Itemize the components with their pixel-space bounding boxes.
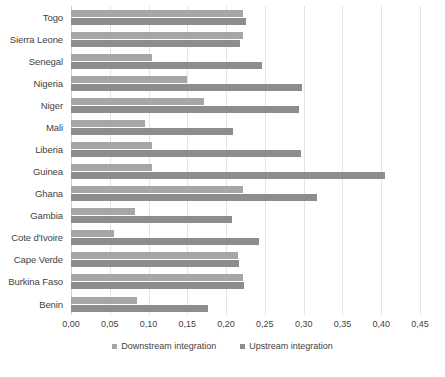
x-axis-tick-label: 0,45 (411, 319, 429, 329)
bar-group (71, 50, 420, 72)
bar-upstream (71, 194, 317, 201)
chart-legend: Downstream integrationUpstream integrati… (0, 341, 445, 351)
bar-downstream (71, 142, 152, 149)
bar-downstream (71, 186, 243, 193)
legend-item[interactable]: Upstream integration (240, 341, 333, 351)
bar-downstream (71, 54, 152, 61)
bar-downstream (71, 76, 187, 83)
x-axis-tick-label: 0,00 (62, 319, 80, 329)
category-label: Niger (0, 94, 67, 116)
x-axis-tick-label: 0,40 (372, 319, 390, 329)
bar-rows (71, 6, 420, 315)
bar-upstream (71, 260, 239, 267)
bar-upstream (71, 305, 208, 312)
x-axis-tick-label: 0,20 (217, 319, 235, 329)
value-axis: 0,000,050,100,150,200,250,300,350,400,45 (71, 315, 420, 333)
bar-group (71, 94, 420, 116)
bar-upstream (71, 18, 246, 25)
category-label: Cote d'Ivoire (0, 227, 67, 249)
gridline-0-45 (420, 6, 421, 315)
bar-group (71, 161, 420, 183)
x-axis-tick-label: 0,30 (295, 319, 313, 329)
category-label: Sierra Leone (0, 28, 67, 50)
bar-upstream (71, 172, 385, 179)
bar-downstream (71, 10, 243, 17)
legend-swatch-icon (112, 344, 117, 349)
bar-group (71, 116, 420, 138)
bar-group (71, 249, 420, 271)
bar-downstream (71, 274, 243, 281)
bar-group (71, 227, 420, 249)
category-label: Senegal (0, 50, 67, 72)
category-label: Ghana (0, 183, 67, 205)
category-label: Cape Verde (0, 249, 67, 271)
bar-upstream (71, 106, 299, 113)
bar-group (71, 183, 420, 205)
legend-item[interactable]: Downstream integration (112, 341, 216, 351)
bar-downstream (71, 164, 152, 171)
bar-downstream (71, 208, 135, 215)
bar-upstream (71, 216, 232, 223)
x-axis-tick-label: 0,05 (101, 319, 119, 329)
category-axis-labels: TogoSierra LeoneSenegalNigeriaNigerMaliL… (0, 6, 67, 315)
category-label: Burkina Faso (0, 271, 67, 293)
x-axis-tick-label: 0,35 (334, 319, 352, 329)
bar-upstream (71, 40, 240, 47)
plot-area (71, 6, 420, 315)
legend-label: Downstream integration (121, 341, 216, 351)
bar-group (71, 28, 420, 50)
bar-group (71, 6, 420, 28)
category-label: Liberia (0, 138, 67, 160)
bar-downstream (71, 252, 238, 259)
category-label: Gambia (0, 205, 67, 227)
bar-group (71, 271, 420, 293)
legend-label: Upstream integration (249, 341, 333, 351)
bar-downstream (71, 230, 114, 237)
category-label: Guinea (0, 161, 67, 183)
bar-upstream (71, 62, 262, 69)
x-axis-tick-label: 0,25 (256, 319, 274, 329)
bar-upstream (71, 128, 233, 135)
bar-upstream (71, 150, 301, 157)
bar-downstream (71, 297, 137, 304)
category-label: Benin (0, 293, 67, 315)
category-label: Mali (0, 116, 67, 138)
x-axis-tick-label: 0,10 (140, 319, 158, 329)
legend-swatch-icon (240, 344, 245, 349)
bar-downstream (71, 98, 204, 105)
bar-group (71, 205, 420, 227)
bar-group (71, 293, 420, 315)
bar-upstream (71, 238, 259, 245)
bar-downstream (71, 120, 145, 127)
bar-group (71, 72, 420, 94)
bar-group (71, 138, 420, 160)
bar-upstream (71, 282, 244, 289)
x-axis-tick-label: 0,15 (179, 319, 197, 329)
category-label: Togo (0, 6, 67, 28)
bar-downstream (71, 32, 243, 39)
horizontal-bar-chart: TogoSierra LeoneSenegalNigeriaNigerMaliL… (0, 0, 445, 377)
category-label: Nigeria (0, 72, 67, 94)
bar-upstream (71, 84, 302, 91)
